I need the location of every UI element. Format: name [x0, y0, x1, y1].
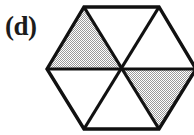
figure-panel: (d) — [0, 0, 194, 135]
hexagon-diagram — [0, 0, 194, 135]
